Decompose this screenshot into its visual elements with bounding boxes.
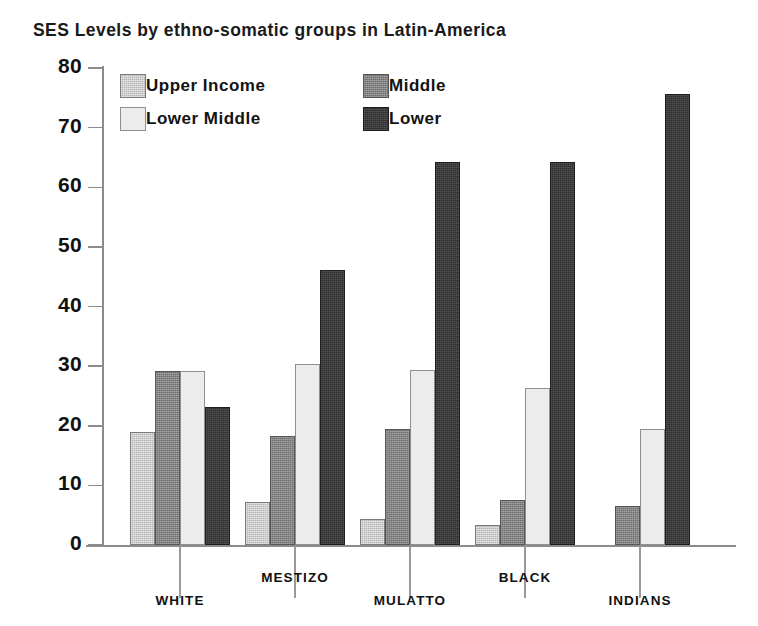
x-category-label-white: WHITE [120,593,240,608]
bar-chart: SES Levels by ethno-somatic groups in La… [0,0,758,626]
y-tick-label-70: 70 [24,114,82,138]
y-axis-line [102,66,104,547]
y-tick-label-80: 80 [24,54,82,78]
bar-mestizo-upper [245,502,270,545]
bar-indians-lower [665,94,690,545]
x-separator-indians [639,546,640,598]
y-tick-60 [88,187,102,189]
y-tick-label-60: 60 [24,173,82,197]
bar-white-lowermiddle [180,371,205,545]
x-category-label-mulatto: MULATTO [350,593,470,608]
legend-swatch-upper-income [120,74,146,98]
bar-mestizo-middle [270,436,295,545]
legend-item-lower-middle: Lower Middle [120,109,261,129]
y-tick-label-wrap-10: 10 [16,471,82,495]
x-separator-white [179,546,180,598]
y-tick-30 [88,365,102,367]
y-tick-label-40: 40 [24,293,82,317]
y-tick-label-wrap-20: 20 [16,412,82,436]
y-tick-10 [88,485,102,487]
y-tick-label-50: 50 [24,233,82,257]
legend-label-middle: Middle [389,76,446,96]
y-tick-label-wrap-0: 0 [16,531,82,555]
bar-black-middle [500,500,525,545]
legend-label-lower-middle: Lower Middle [146,109,261,129]
bar-mestizo-lower [320,270,345,545]
bar-black-lower [550,162,575,545]
y-tick-label-wrap-80: 80 [16,54,82,78]
y-tick-80 [88,67,102,69]
y-tick-label-wrap-70: 70 [16,114,82,138]
x-separator-mulatto [409,546,410,598]
bar-mulatto-middle [385,429,410,545]
y-tick-label-20: 20 [24,412,82,436]
bar-white-lower [205,407,230,545]
bar-mulatto-lowermiddle [410,370,435,545]
legend-swatch-lower-middle [120,107,146,131]
legend-label-upper-income: Upper Income [146,76,265,96]
y-tick-50 [88,246,102,248]
y-tick-label-wrap-50: 50 [16,233,82,257]
x-category-label-black: BLACK [465,570,585,585]
y-tick-0 [88,544,102,546]
legend-item-lower: Lower [363,109,442,129]
bar-indians-lowermiddle [640,429,665,545]
y-tick-70 [88,127,102,129]
legend-swatch-middle [363,74,389,98]
bar-mulatto-upper [360,519,385,545]
bar-white-upper [130,432,155,545]
bar-black-upper [475,525,500,545]
y-tick-label-wrap-30: 30 [16,352,82,376]
y-tick-label-wrap-40: 40 [16,293,82,317]
y-tick-label-wrap-60: 60 [16,173,82,197]
x-category-label-mestizo: MESTIZO [235,570,355,585]
y-tick-label-30: 30 [24,352,82,376]
y-tick-40 [88,306,102,308]
y-tick-label-0: 0 [24,531,82,555]
y-tick-20 [88,425,102,427]
chart-legend: Upper Income Lower Middle Middle Lower [120,76,550,134]
bar-white-middle [155,371,180,545]
bar-black-lowermiddle [525,388,550,545]
legend-item-upper-income: Upper Income [120,76,265,96]
legend-item-middle: Middle [363,76,446,96]
y-tick-label-10: 10 [24,471,82,495]
bar-mestizo-lowermiddle [295,364,320,545]
bar-indians-middle [615,506,640,545]
bar-mulatto-lower [435,162,460,545]
legend-label-lower: Lower [389,109,442,129]
legend-swatch-lower [363,107,389,131]
x-category-label-indians: INDIANS [580,593,700,608]
